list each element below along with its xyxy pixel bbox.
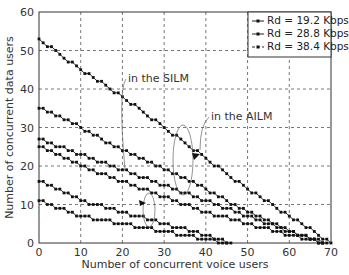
data-marker — [38, 107, 41, 110]
data-marker — [113, 145, 116, 148]
data-marker — [292, 219, 295, 222]
data-marker — [217, 238, 220, 241]
data-marker — [234, 219, 237, 222]
data-marker — [159, 195, 162, 198]
data-marker — [275, 207, 278, 210]
data-marker — [154, 230, 157, 233]
data-marker — [263, 226, 266, 229]
data-marker — [184, 142, 187, 145]
data-marker — [121, 211, 124, 214]
data-marker — [209, 199, 212, 202]
data-marker — [242, 207, 245, 210]
data-marker — [88, 215, 91, 218]
data-marker — [142, 111, 145, 114]
data-marker — [275, 230, 278, 233]
data-marker — [288, 234, 291, 237]
data-marker — [146, 115, 149, 118]
data-marker — [280, 230, 283, 233]
data-marker — [159, 222, 162, 225]
data-marker — [67, 149, 70, 152]
data-marker — [204, 188, 207, 191]
data-marker — [142, 157, 145, 160]
data-marker — [167, 195, 170, 198]
data-marker — [188, 203, 191, 206]
data-marker — [63, 145, 66, 148]
data-marker — [50, 203, 53, 206]
data-marker — [305, 234, 308, 237]
data-marker — [117, 222, 120, 225]
x-tick-label: 70 — [324, 246, 338, 259]
data-marker — [67, 118, 70, 121]
data-marker — [113, 176, 116, 179]
data-marker — [255, 215, 258, 218]
data-marker — [163, 126, 166, 129]
data-marker — [79, 153, 82, 156]
data-marker — [188, 145, 191, 148]
data-marker — [192, 180, 195, 183]
data-marker — [75, 215, 78, 218]
data-marker — [113, 165, 116, 168]
data-marker — [200, 199, 203, 202]
data-marker — [109, 165, 112, 168]
data-marker — [100, 172, 103, 175]
data-marker — [42, 145, 45, 148]
data-marker — [63, 207, 66, 210]
data-marker — [71, 122, 74, 125]
data-marker — [171, 230, 174, 233]
data-marker — [63, 192, 66, 195]
data-marker — [54, 145, 57, 148]
data-marker — [46, 149, 49, 152]
data-marker — [134, 226, 137, 229]
data-marker — [38, 199, 41, 202]
data-marker — [150, 161, 153, 164]
data-marker — [79, 199, 82, 202]
data-marker — [184, 226, 187, 229]
data-marker — [188, 180, 191, 183]
data-marker — [321, 242, 324, 245]
data-marker — [134, 103, 137, 106]
data-marker — [142, 176, 145, 179]
data-marker — [163, 184, 166, 187]
data-marker — [313, 230, 316, 233]
data-marker — [104, 219, 107, 222]
data-marker — [83, 72, 86, 75]
data-marker — [163, 222, 166, 225]
data-marker — [175, 234, 178, 237]
data-marker — [225, 199, 228, 202]
data-marker — [42, 180, 45, 183]
data-marker — [300, 234, 303, 237]
data-marker — [167, 168, 170, 171]
data-marker — [271, 230, 274, 233]
data-marker — [267, 226, 270, 229]
data-marker — [238, 207, 241, 210]
data-marker — [229, 176, 232, 179]
data-marker — [200, 238, 203, 241]
data-marker — [121, 222, 124, 225]
data-marker — [250, 215, 253, 218]
data-marker — [238, 211, 241, 214]
data-marker — [100, 80, 103, 83]
data-marker — [75, 161, 78, 164]
data-marker — [71, 149, 74, 152]
data-marker — [280, 226, 283, 229]
data-marker — [284, 230, 287, 233]
data-marker — [142, 188, 145, 191]
data-marker — [238, 219, 241, 222]
data-marker — [50, 184, 53, 187]
data-marker — [167, 222, 170, 225]
data-marker — [96, 134, 99, 137]
data-marker — [200, 211, 203, 214]
data-marker — [225, 242, 228, 245]
data-marker — [154, 180, 157, 183]
data-marker — [138, 226, 141, 229]
annotation-ellipse — [173, 125, 193, 195]
data-marker — [275, 222, 278, 225]
data-marker — [267, 199, 270, 202]
data-marker — [125, 222, 128, 225]
data-marker — [63, 57, 66, 60]
data-marker — [109, 219, 112, 222]
data-marker — [192, 234, 195, 237]
data-marker — [46, 45, 49, 48]
data-marker — [79, 126, 82, 129]
data-marker — [221, 242, 224, 245]
